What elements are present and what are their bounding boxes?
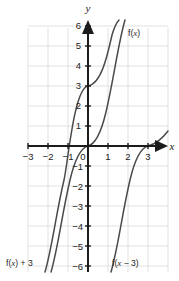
grid-lines	[28, 26, 168, 272]
curve-label-fx-plus-3: f(x) + 3	[6, 258, 33, 268]
x-tick-label-2: 2	[125, 151, 130, 162]
y-axis-arrow	[82, 20, 94, 34]
curve-label-fx: f(x)	[128, 28, 140, 38]
y-tick-label-3: 3	[76, 80, 81, 91]
x-tick-label-1: 1	[105, 151, 110, 162]
x-tick-label--3: −3	[23, 151, 34, 162]
curve-fx-minus-3	[111, 131, 168, 272]
y-tick-label-5: 5	[76, 40, 81, 51]
y-tick-label--2: −2	[72, 181, 83, 192]
graph-figure: −3 −2 −1 0 1 2 3 6 5 4 3 2 1 −1 −2 −3 −4…	[0, 0, 179, 281]
x-axis-arrow	[155, 140, 168, 152]
y-tick-label--1: −1	[72, 161, 83, 172]
curve-label-fx-minus-3-post: − 3)	[121, 258, 139, 268]
y-tick-label-4: 4	[76, 60, 81, 71]
curve-label-fx-plus-3-post: ) + 3	[15, 258, 33, 268]
y-tick-label-1: 1	[76, 120, 81, 131]
y-tick-label-6: 6	[76, 20, 81, 31]
y-tick-label--6: −6	[72, 261, 83, 272]
coordinate-plane: −3 −2 −1 0 1 2 3 6 5 4 3 2 1 −1 −2 −3 −4…	[0, 0, 179, 281]
axis-lines	[28, 23, 155, 272]
curve-label-fx-minus-3: f(x − 3)	[112, 258, 139, 268]
x-axis-label: x	[169, 140, 175, 152]
y-tick-label--3: −3	[72, 201, 83, 212]
x-tick-label--2: −2	[43, 151, 54, 162]
y-tick-label--5: −5	[72, 241, 83, 252]
y-axis-label: y	[85, 2, 91, 14]
y-tick-label-2: 2	[76, 100, 81, 111]
curve-label-fx-post: )	[137, 28, 140, 38]
x-tick-label-3: 3	[145, 151, 150, 162]
y-tick-label--4: −4	[72, 221, 83, 232]
